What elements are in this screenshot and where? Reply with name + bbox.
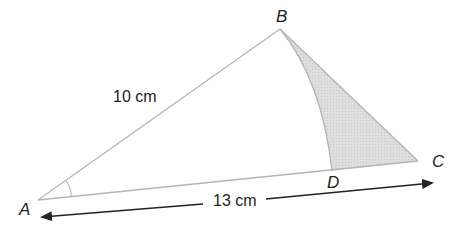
point-label-c: C (432, 152, 444, 172)
edge-ab (38, 29, 280, 200)
measurement-ab: 10 cm (113, 88, 157, 106)
point-label-a: A (19, 200, 30, 220)
measurement-ac: 13 cm (213, 192, 257, 210)
arrow-right-segment (266, 183, 432, 199)
shaded-region (280, 29, 418, 171)
angle-mark-a (66, 181, 71, 197)
triangle-diagram: A B C D 10 cm 13 cm (0, 0, 456, 236)
point-label-b: B (276, 7, 287, 27)
point-label-d: D (327, 173, 339, 193)
arrow-left-segment (42, 204, 203, 217)
